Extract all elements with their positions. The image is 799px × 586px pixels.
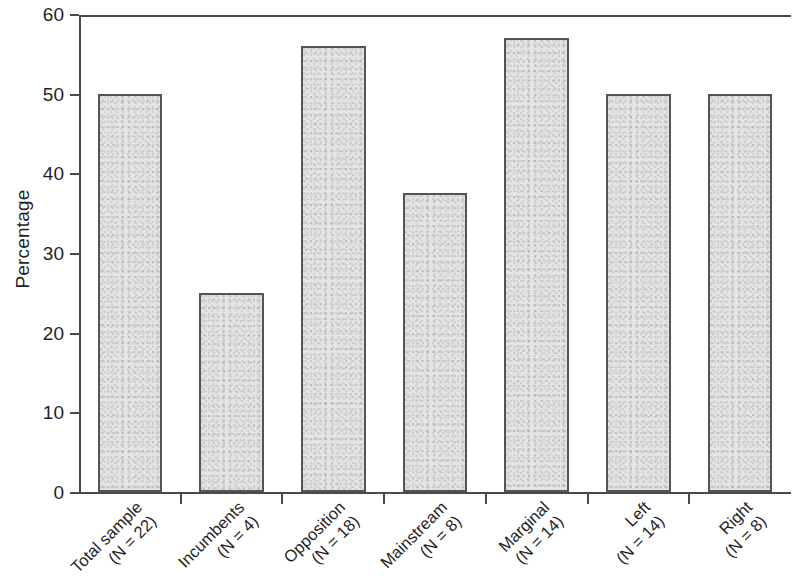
y-axis-line xyxy=(79,15,81,494)
x-axis-label: Mainstream(N = 8) xyxy=(352,497,465,586)
bar xyxy=(199,293,264,492)
plot-area: 0102030405060 xyxy=(79,15,791,493)
bar-chart-figure: Percentage 0102030405060 Total sample(N … xyxy=(0,0,799,586)
y-tick: 30 xyxy=(70,253,79,255)
y-axis-title: Percentage xyxy=(12,169,34,309)
x-axis-line xyxy=(79,492,791,494)
y-tick-label: 30 xyxy=(43,243,64,265)
bar xyxy=(504,38,569,492)
y-tick: 40 xyxy=(70,173,79,175)
y-tick-label: 20 xyxy=(43,323,64,345)
bar xyxy=(98,94,163,492)
x-tick xyxy=(180,494,182,504)
plot-top-border xyxy=(79,15,791,17)
y-tick: 60 xyxy=(70,14,79,16)
y-tick-label: 10 xyxy=(43,402,64,424)
x-axis-label: Right(N = 8) xyxy=(657,497,770,586)
x-axis-label: Incumbents(N = 4) xyxy=(149,497,262,586)
x-tick xyxy=(587,494,589,504)
bar xyxy=(708,94,773,492)
x-axis-label: Left(N = 14) xyxy=(556,497,669,586)
bar xyxy=(301,46,366,492)
x-tick xyxy=(485,494,487,504)
y-tick: 0 xyxy=(70,492,79,494)
y-tick-label: 0 xyxy=(53,482,64,504)
bar xyxy=(403,193,468,492)
y-tick-label: 40 xyxy=(43,163,64,185)
y-tick: 10 xyxy=(70,412,79,414)
y-tick: 50 xyxy=(70,94,79,96)
y-tick-label: 50 xyxy=(43,84,64,106)
x-axis-label: Total sample(N = 22) xyxy=(47,497,160,586)
y-tick-label: 60 xyxy=(43,4,64,26)
x-tick xyxy=(281,494,283,504)
x-tick xyxy=(383,494,385,504)
x-axis-label: Marginal(N = 14) xyxy=(454,497,567,586)
x-tick xyxy=(688,494,690,504)
y-tick: 20 xyxy=(70,333,79,335)
bar xyxy=(606,94,671,492)
x-axis-label: Opposition(N = 18) xyxy=(250,497,363,586)
